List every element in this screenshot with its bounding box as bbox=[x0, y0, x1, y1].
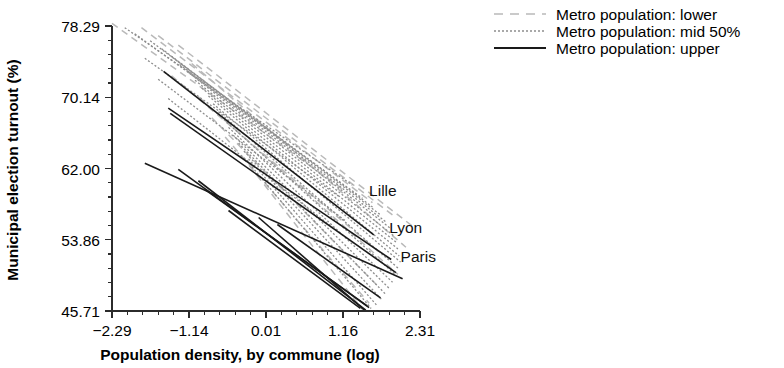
y-tick-label-0: 78.29 bbox=[61, 18, 100, 35]
x-tick-label-4: 2.31 bbox=[405, 322, 435, 339]
x-tick-label-0: −2.29 bbox=[92, 322, 131, 339]
annotation-lyon: Lyon bbox=[389, 219, 422, 236]
legend-label-1: Metro population: mid 50% bbox=[556, 23, 741, 40]
legend-label-2: Metro population: upper bbox=[556, 40, 720, 57]
y-tick-label-1: 70.14 bbox=[61, 89, 100, 106]
y-tick-label-3: 53.86 bbox=[61, 232, 100, 249]
x-tick-label-1: −1.14 bbox=[169, 322, 209, 339]
y-tick-label-4: 45.71 bbox=[61, 303, 100, 320]
y-axis-title: Municipal election turnout (%) bbox=[4, 59, 21, 280]
x-tick-label-2: 0.01 bbox=[251, 322, 281, 339]
y-tick-label-2: 62.00 bbox=[61, 161, 100, 178]
chart-figure: −2.29−1.140.011.162.31 78.2970.1462.0053… bbox=[0, 0, 784, 368]
x-axis-title: Population density, by commune (log) bbox=[100, 346, 380, 363]
annotation-lille: Lille bbox=[369, 182, 397, 199]
chart-svg: −2.29−1.140.011.162.31 78.2970.1462.0053… bbox=[0, 0, 784, 368]
annotation-paris: Paris bbox=[401, 248, 437, 265]
legend-label-0: Metro population: lower bbox=[556, 6, 717, 23]
x-tick-label-3: 1.16 bbox=[328, 322, 358, 339]
